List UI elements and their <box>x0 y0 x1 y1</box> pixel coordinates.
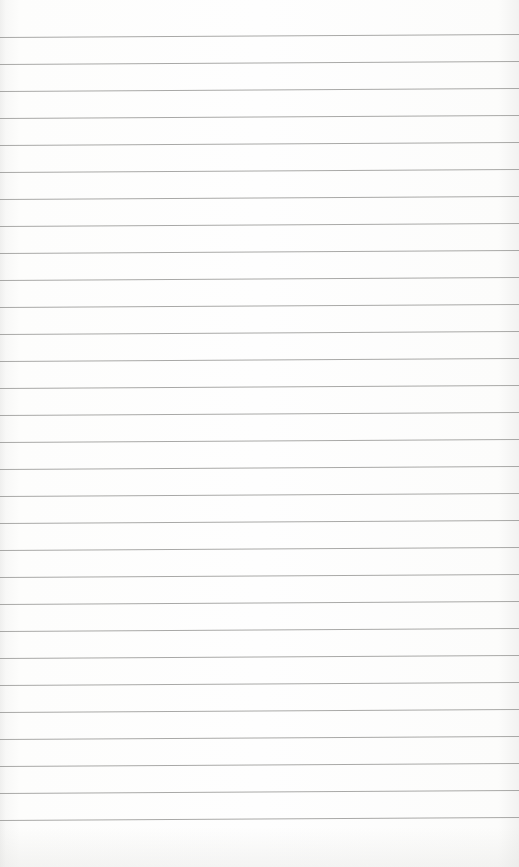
ruled-line <box>0 710 519 713</box>
ruled-line <box>0 143 519 146</box>
ruled-line <box>0 467 519 470</box>
ruled-line <box>0 251 519 254</box>
ruled-line <box>0 359 519 362</box>
ruled-line <box>0 170 519 173</box>
ruled-lines <box>0 0 519 867</box>
ruled-line <box>0 116 519 119</box>
ruled-line <box>0 629 519 632</box>
ruled-line <box>0 575 519 578</box>
ruled-line <box>0 332 519 335</box>
ruled-line <box>0 737 519 740</box>
ruled-line <box>0 224 519 227</box>
ruled-line <box>0 494 519 497</box>
ruled-line <box>0 278 519 281</box>
ruled-line <box>0 413 519 416</box>
ruled-line <box>0 386 519 389</box>
ruled-line <box>0 89 519 92</box>
ruled-line <box>0 197 519 200</box>
notebook-page <box>0 0 519 867</box>
page-bottom-shading <box>0 827 519 867</box>
ruled-line <box>0 683 519 686</box>
ruled-line <box>0 521 519 524</box>
ruled-line <box>0 305 519 308</box>
ruled-line <box>0 548 519 551</box>
ruled-line <box>0 35 519 38</box>
ruled-line <box>0 656 519 659</box>
ruled-line <box>0 440 519 443</box>
ruled-line <box>0 818 519 821</box>
ruled-line <box>0 791 519 794</box>
ruled-line <box>0 602 519 605</box>
ruled-line <box>0 764 519 767</box>
ruled-line <box>0 62 519 65</box>
